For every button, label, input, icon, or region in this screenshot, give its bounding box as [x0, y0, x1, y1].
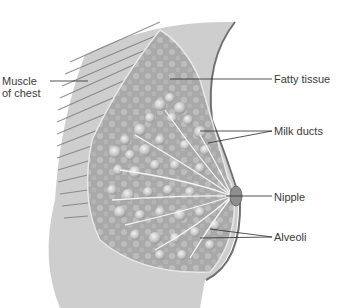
breast-anatomy-illustration: Muscle of chest Fatty tissue Milk ducts …	[0, 0, 343, 308]
label-muscle-of-chest: Muscle of chest	[2, 75, 41, 99]
label-alveoli: Alveoli	[274, 231, 306, 243]
label-muscle-line1: Muscle	[2, 75, 41, 87]
label-nipple: Nipple	[274, 191, 305, 203]
label-muscle-line2: of chest	[2, 87, 41, 99]
label-fatty-tissue: Fatty tissue	[274, 73, 330, 85]
anatomy-drawing	[0, 0, 343, 308]
label-milk-ducts: Milk ducts	[274, 125, 323, 137]
